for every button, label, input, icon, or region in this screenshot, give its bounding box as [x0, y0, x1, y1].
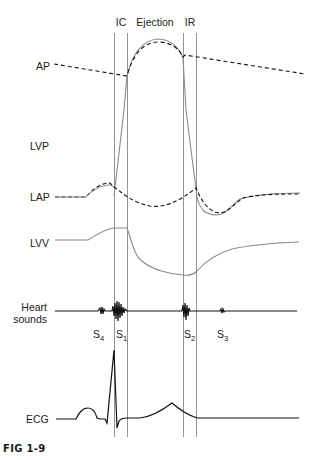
phase-label-ejection: Ejection	[136, 16, 174, 28]
lap-gray-trace	[55, 185, 114, 197]
phase-dividers	[115, 33, 197, 437]
ap-trace	[54, 42, 305, 76]
trace-label-lvv: LVV	[30, 237, 49, 249]
lvp-trace	[114, 39, 300, 215]
figure-caption: FIG 1-9	[3, 443, 45, 454]
trace-label-ecg: ECG	[26, 413, 49, 425]
sound-label-s2: S2	[184, 328, 195, 343]
sound-label-s4: S4	[93, 328, 104, 343]
sound-label-s1: S1	[116, 328, 127, 343]
ecg-trace	[56, 350, 299, 428]
trace-label-lap: LAP	[30, 191, 50, 203]
trace-label-lvp: LVP	[30, 140, 49, 152]
trace-label-ap: AP	[36, 60, 50, 72]
trace-label-heart: Heart	[21, 301, 47, 313]
lvv-trace	[55, 228, 299, 275]
heart-sounds-trace	[55, 301, 297, 321]
sound-label-s3: S3	[217, 328, 228, 343]
lap-trace	[55, 183, 300, 213]
trace-label-sounds: sounds	[13, 313, 47, 325]
phase-label-ic: IC	[116, 16, 127, 28]
phase-label-ir: IR	[185, 16, 196, 28]
cardiac-cycle-diagram: IC Ejection IR AP LVP LAP LVV Heart soun…	[0, 0, 321, 460]
